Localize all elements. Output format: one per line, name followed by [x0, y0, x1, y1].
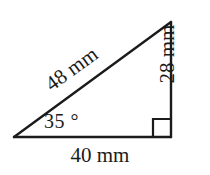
base-length-label: 40 mm	[0, 145, 200, 166]
vertical-length-label: 28 mm	[157, 25, 178, 84]
angle-measure-label: 35 °	[44, 111, 79, 131]
